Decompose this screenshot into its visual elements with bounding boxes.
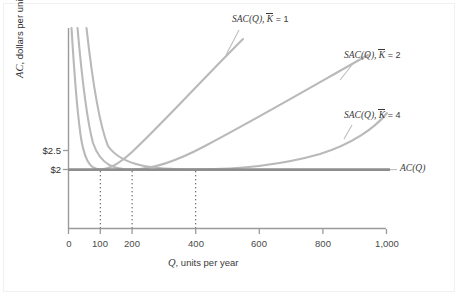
- k-equals-4: =: [385, 110, 395, 120]
- curve-label-ac: AC(Q): [400, 163, 425, 173]
- curve-label-sac-k4: SAC(Q), K = 4: [344, 110, 400, 120]
- curve-label-sac-k4-text: SAC(Q),: [344, 110, 379, 120]
- k-equals-2: =: [385, 50, 395, 60]
- y-axis-title: AC, dollars per unit: [14, 0, 25, 78]
- x-axis-title-text: , units per year: [176, 257, 239, 268]
- x-tick-label-1000: 1,000: [371, 238, 403, 249]
- x-tick-label-600: 600: [244, 238, 274, 249]
- figure-container: $2.5 $2 0 100 200 400 600 800 1,000 Q, u…: [0, 0, 458, 295]
- x-axis-title-symbol: Q: [168, 257, 176, 268]
- y-tick-label-2-5: $2.5: [18, 145, 61, 156]
- y-tick-label-2: $2: [18, 164, 61, 175]
- x-tick-label-0: 0: [54, 238, 84, 249]
- plot-area: [0, 0, 458, 295]
- curve-label-sac-k1: SAC(Q), K = 1: [232, 14, 288, 24]
- y-axis-title-text: , dollars per unit: [14, 0, 25, 65]
- k-value-1: 1: [283, 14, 288, 24]
- k-value-2: 2: [395, 50, 400, 60]
- x-tick-label-800: 800: [308, 238, 338, 249]
- x-tick-label-200: 200: [117, 238, 147, 249]
- k-equals-1: =: [273, 14, 283, 24]
- x-tick-label-100: 100: [85, 238, 115, 249]
- k-bar-symbol-4: K: [379, 110, 385, 120]
- k-value-4: 4: [395, 110, 400, 120]
- k-bar-symbol-1: K: [267, 14, 273, 24]
- y-axis-title-symbol: AC: [14, 65, 25, 78]
- curve-sac-k4: [87, 28, 388, 169]
- x-axis-title: Q, units per year: [168, 257, 238, 268]
- leader-k4: [344, 125, 352, 139]
- curve-label-sac-k1-text: SAC(Q),: [232, 14, 267, 24]
- k-bar-symbol-2: K: [379, 50, 385, 60]
- x-tick-marks: [69, 229, 387, 234]
- dropline-group: [100, 171, 195, 228]
- curve-label-sac-k2: SAC(Q), K = 2: [344, 50, 400, 60]
- x-tick-label-400: 400: [181, 238, 211, 249]
- curve-label-sac-k2-text: SAC(Q),: [344, 50, 379, 60]
- curve-sac-k2: [78, 28, 369, 169]
- leader-k1: [226, 30, 239, 55]
